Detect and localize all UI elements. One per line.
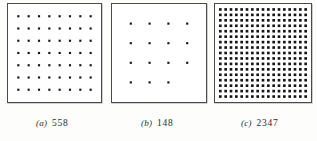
lattice-dot [240,14,243,17]
lattice-dot [262,68,265,71]
lattice-dot [294,90,297,93]
lattice-dot [219,30,222,33]
lattice-dot [267,30,270,33]
lattice-dot [256,95,259,98]
lattice-dot [256,63,259,66]
lattice-dot [79,64,81,66]
caption-c: (c)2347 [241,119,278,129]
lattice-dot [304,24,307,27]
lattice-dot [230,63,233,66]
lattice-dot [288,46,291,49]
lattice-dot [256,68,259,71]
lattice-dot [288,41,291,44]
lattice-dot [272,79,275,82]
lattice-dot [294,63,297,66]
lattice-dot [224,73,227,76]
lattice-dot [283,63,286,66]
lattice-dot [278,35,281,38]
lattice-dot [130,23,132,25]
lattice-dot [283,46,286,49]
lattice-dot [256,84,259,87]
lattice-dot [299,79,302,82]
lattice-dot [240,52,243,55]
caption-b: (b)148 [141,119,173,129]
lattice-dot [235,90,238,93]
lattice-dot [90,76,92,78]
lattice-dot [251,8,254,11]
caption-a: (a)558 [36,119,68,129]
lattice-dot [240,79,243,82]
lattice-dot [230,8,233,11]
lattice-dot [272,8,275,11]
figure-dot-density-plates: (a)558 (b)148 (c)2347 [0,0,317,141]
lattice-dot [230,68,233,71]
lattice-dot [224,63,227,66]
lattice-dot [256,14,259,17]
lattice-dot [251,35,254,38]
caption-b-label: (b) [141,118,152,128]
lattice-dot [294,73,297,76]
lattice-dot [251,95,254,98]
lattice-dot [299,68,302,71]
lattice-dot [288,95,291,98]
caption-b-count: 148 [157,118,173,128]
lattice-dot [59,15,61,17]
lattice-dot [235,73,238,76]
lattice-dot [219,24,222,27]
lattice-dot [288,19,291,22]
plate-b [111,3,207,103]
lattice-dot [230,84,233,87]
lattice-dot [288,68,291,71]
lattice-dot [267,8,270,11]
lattice-dot [38,27,40,29]
lattice-dot [219,19,222,22]
lattice-dot [219,41,222,44]
lattice-dot [256,41,259,44]
lattice-dot [299,19,302,22]
lattice-dot [246,68,249,71]
lattice-dot [240,73,243,76]
lattice-dot [272,41,275,44]
lattice-dot [304,68,307,71]
lattice-dot [283,90,286,93]
lattice-dot [294,41,297,44]
lattice-dot [224,84,227,87]
lattice-dot [283,57,286,60]
lattice-dot [272,24,275,27]
lattice-dot [230,57,233,60]
lattice-dot [256,90,259,93]
lattice-dot [240,63,243,66]
lattice-dot [256,57,259,60]
lattice-dot [240,46,243,49]
lattice-dot [219,14,222,17]
lattice-dot [246,52,249,55]
lattice-dot [38,15,40,17]
lattice-dot [251,19,254,22]
lattice-dot [272,57,275,60]
lattice-dot [304,95,307,98]
lattice-dot [272,46,275,49]
lattice-dot [283,68,286,71]
dot-field-a [8,4,101,102]
lattice-dot [251,63,254,66]
lattice-dot [304,8,307,11]
lattice-dot [304,41,307,44]
lattice-dot [278,90,281,93]
lattice-dot [246,8,249,11]
lattice-dot [230,30,233,33]
lattice-dot [224,95,227,98]
lattice-dot [235,19,238,22]
lattice-dot [304,35,307,38]
lattice-dot [251,24,254,27]
lattice-dot [283,35,286,38]
lattice-dot [90,52,92,54]
lattice-dot [288,57,291,60]
lattice-dot [69,27,71,29]
lattice-dot [278,30,281,33]
lattice-dot [251,14,254,17]
lattice-dot [219,8,222,11]
lattice-dot [230,90,233,93]
lattice-dot [240,35,243,38]
lattice-dot [272,73,275,76]
lattice-dot [59,40,61,42]
